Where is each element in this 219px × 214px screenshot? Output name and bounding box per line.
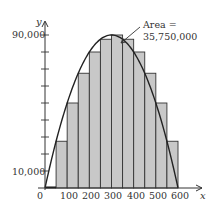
annotation-area-line1: Area = [142, 19, 177, 30]
x-tick-label-400: 400 [127, 190, 145, 201]
riemann-sum-chart: y x 90,000 10,000 0 100 200 300 400 500 … [0, 0, 219, 214]
x-tick-label-300: 300 [104, 190, 122, 201]
y-tick-label-90000: 90,000 [12, 29, 45, 40]
bar [123, 39, 134, 188]
x-tick-label-500: 500 [149, 190, 167, 201]
x-tick-label-100: 100 [60, 190, 78, 201]
y-axis-label: y [35, 16, 42, 27]
bar [145, 73, 156, 188]
x-axis-label: x [200, 190, 206, 201]
annotation-area-line2: 35,750,000 [143, 31, 197, 42]
y-tick-label-10000: 10,000 [12, 166, 45, 177]
x-tick-label-0: 0 [37, 190, 43, 201]
bar [112, 35, 123, 188]
bar [89, 52, 100, 188]
x-tick-label-200: 200 [82, 190, 100, 201]
bar [156, 103, 167, 188]
bar [78, 73, 89, 188]
bar [56, 141, 67, 188]
x-tick-label-600: 600 [171, 190, 189, 201]
bar [67, 103, 78, 188]
bar [100, 39, 111, 188]
bar [134, 52, 145, 188]
